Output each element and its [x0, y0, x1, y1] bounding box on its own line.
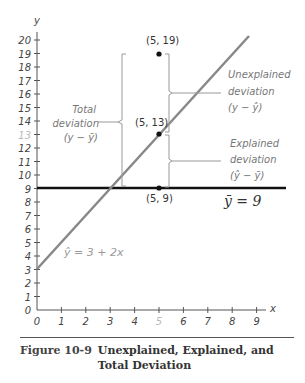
explained-deviation-bracket [165, 135, 172, 187]
deviation-chart: y x 01234567891011121314151617181920 012… [0, 0, 305, 335]
y-tick-label: 19 [18, 49, 31, 60]
caption-divider [20, 337, 294, 338]
regression-line [37, 36, 249, 269]
point-5-9 [156, 185, 161, 190]
y-tick-label: 4 [25, 251, 31, 262]
y-tick-label: 20 [18, 35, 31, 46]
x-tick-label: 2 [83, 316, 89, 327]
y-tick-label: 8 [25, 197, 31, 208]
x-tick-label: 3 [107, 316, 113, 327]
point-label-5-19: (5, 19) [146, 35, 179, 46]
explained-label-3: (ŷ − ȳ) [230, 170, 264, 181]
x-tick-label: 7 [205, 316, 212, 327]
y-tick-label: 17 [18, 76, 31, 87]
y-tick-label: 9 [25, 184, 31, 195]
point-label-5-9: (5, 9) [146, 193, 173, 204]
regression-equation: ŷ = 3 + 2x [63, 246, 124, 259]
y-tick-label: 18 [18, 62, 31, 73]
y-tick-label: 14 [18, 116, 31, 127]
total-deviation-bracket [118, 54, 126, 186]
y-axis-label: y [33, 15, 41, 26]
y-tick-label: 11 [18, 157, 31, 168]
point-label-5-13: (5, 13) [135, 117, 168, 128]
y-tick-label: 15 [18, 103, 31, 114]
x-tick-label: 4 [131, 316, 137, 327]
total-deviation-label-2: deviation [53, 118, 99, 129]
x-tick-label: 0 [34, 316, 40, 327]
explained-label-1: Explained [230, 138, 280, 149]
y-tick-label: 2 [25, 278, 31, 289]
point-5-19 [156, 51, 161, 56]
y-tick-label: 3 [25, 265, 31, 276]
x-tick-label: 9 [253, 316, 259, 327]
y-tick-label: 7 [25, 211, 32, 222]
y-tick-label: 10 [18, 170, 31, 181]
y-tick-label: 0 [25, 305, 31, 316]
total-deviation-label-1: Total [72, 104, 96, 115]
point-5-13 [156, 131, 161, 136]
y-tick-label: 6 [25, 224, 31, 235]
figure-title: Unexplained, Explained, and Total Deviat… [98, 343, 300, 373]
x-axis-label: x [269, 303, 276, 314]
y-tick-label: 12 [18, 143, 31, 154]
explained-label-2: deviation [230, 154, 276, 165]
x-tick-label: 6 [180, 316, 186, 327]
y-tick-label: 1 [25, 292, 31, 303]
y-tick-label: 16 [18, 89, 31, 100]
unexplained-label-1: Unexplained [228, 69, 291, 80]
figure-number: Figure 10-9 [20, 343, 92, 373]
unexplained-label-2: deviation [228, 86, 274, 97]
figure-caption: Figure 10-9 Unexplained, Explained, and … [20, 343, 300, 373]
x-tick-label: 1 [58, 316, 64, 327]
x-tick-label: 5 [156, 316, 162, 327]
unexplained-label-3: (y − ŷ) [228, 102, 262, 113]
y-tick-label: 13 [18, 130, 31, 141]
x-tick-label: 8 [229, 316, 235, 327]
total-deviation-label-3: (y − ȳ) [64, 132, 98, 143]
mean-equation: ȳ = 9 [223, 193, 262, 209]
y-tick-label: 5 [25, 238, 31, 249]
